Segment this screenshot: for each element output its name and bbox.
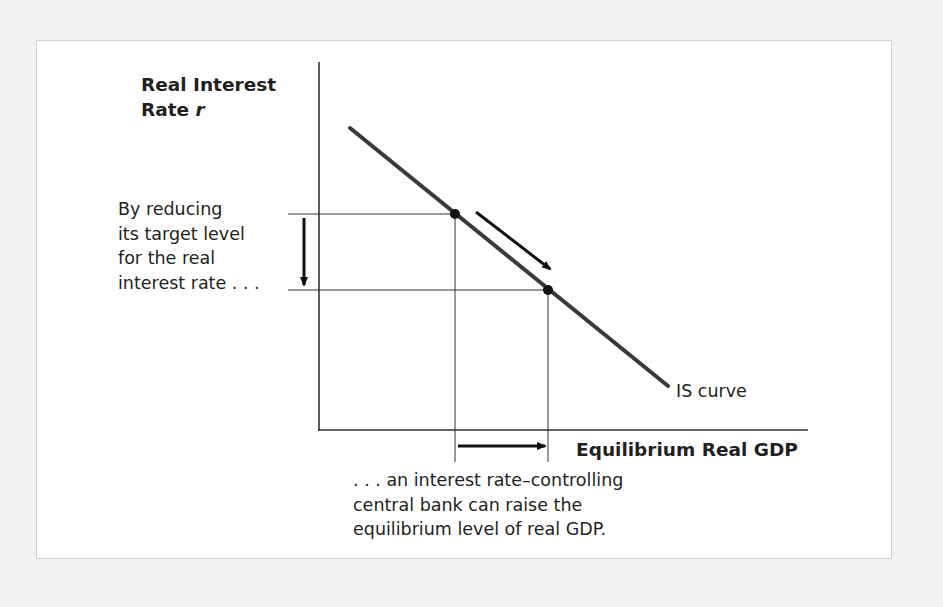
y-axis-symbol: r (196, 99, 205, 120)
bottom-note-line: central bank can raise the (353, 493, 623, 518)
x-axis-label: Equilibrium Real GDP (576, 439, 798, 460)
bottom-annotation: . . . an interest rate–controlling centr… (353, 468, 623, 542)
bottom-note-line: . . . an interest rate–controlling (353, 468, 623, 493)
y-axis-label-text: Rate (141, 99, 196, 120)
equilibrium-point-new (543, 285, 553, 295)
left-note-line: for the real (118, 246, 260, 271)
bottom-note-line: equilibrium level of real GDP. (353, 517, 623, 542)
left-note-line: interest rate . . . (118, 271, 260, 296)
left-note-line: By reducing (118, 197, 260, 222)
y-axis-label-line2: Rate r (141, 97, 276, 122)
y-axis-label-line1: Real Interest (141, 72, 276, 97)
left-note-line: its target level (118, 222, 260, 247)
left-annotation: By reducing its target level for the rea… (118, 197, 260, 295)
equilibrium-point-initial (450, 209, 460, 219)
is-curve-line (350, 128, 668, 386)
y-axis-label: Real Interest Rate r (141, 72, 276, 122)
is-curve-label: IS curve (676, 381, 747, 401)
